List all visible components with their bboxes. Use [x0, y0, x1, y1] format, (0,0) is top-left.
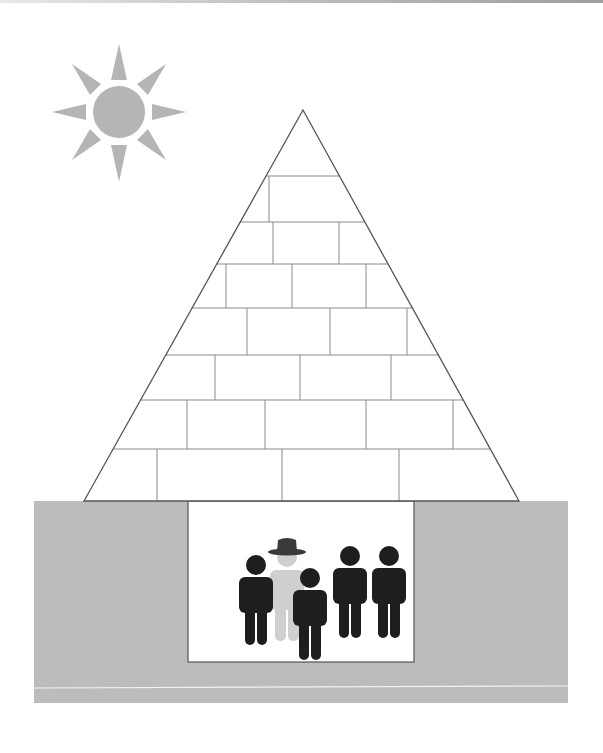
pyramid	[0, 110, 603, 501]
pyramid-diagram	[0, 0, 603, 753]
sun-icon	[52, 44, 186, 182]
